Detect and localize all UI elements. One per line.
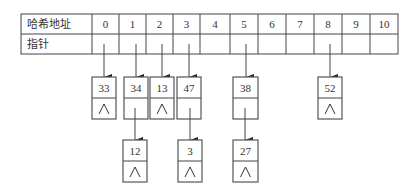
node-value: 27 [240,145,252,157]
address-cell-0: 0 [103,18,109,30]
pointer-row-label: 指针 [27,37,49,51]
address-row-label: 哈希地址 [27,17,71,31]
node-3: 3 [178,140,202,182]
node-34: 34 [124,77,148,119]
node-value: 12 [130,145,141,157]
node-52: 52 [318,77,342,119]
address-cell-3: 3 [184,18,190,30]
node-47: 47 [177,77,201,119]
address-cell-10: 10 [379,18,391,30]
node-value: 34 [131,82,143,94]
address-cell-9: 9 [353,18,359,30]
address-cell-6: 6 [269,18,275,30]
address-cell-5: 5 [241,18,247,30]
address-cell-1: 1 [130,18,136,30]
hash-table-diagram: 哈希地址 指针 0 1 2 3 4 5 6 7 8 9 10 33 34 13 [0,0,419,194]
node-13: 13 [150,77,174,119]
node-value: 33 [99,82,111,94]
address-cell-8: 8 [325,18,331,30]
node-value: 13 [157,82,169,94]
node-33: 33 [92,77,116,119]
node-value: 47 [184,82,196,94]
address-cell-7: 7 [297,18,303,30]
address-cell-2: 2 [157,18,163,30]
hash-table: 哈希地址 指针 0 1 2 3 4 5 6 7 8 9 10 [21,14,398,54]
node-value: 52 [325,82,336,94]
slot-pointers [104,44,330,77]
address-cell-4: 4 [212,18,218,30]
node-12: 12 [123,140,147,182]
node-value: 38 [240,82,252,94]
node-value: 3 [187,145,193,157]
node-27: 27 [233,140,258,182]
